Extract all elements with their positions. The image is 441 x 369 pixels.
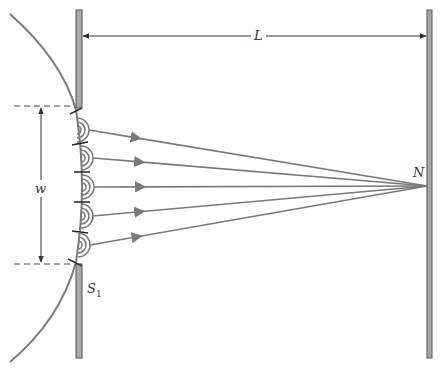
width-label: w xyxy=(35,180,46,197)
ray-segment xyxy=(93,158,140,162)
screen xyxy=(427,10,432,358)
ray-segment xyxy=(140,162,427,186)
ray-segment xyxy=(137,186,427,237)
rays-to-focus xyxy=(89,130,427,245)
focus-point-label: N xyxy=(413,166,424,179)
source-label-main: S xyxy=(87,281,96,296)
ray-segment xyxy=(140,186,427,212)
slit-wall-top xyxy=(76,10,82,108)
ray-segment xyxy=(89,130,136,138)
ray-segment xyxy=(136,138,427,186)
ray-segment xyxy=(141,186,427,187)
ray-segment xyxy=(90,237,137,245)
slit-wall-bottom xyxy=(76,264,82,358)
ray-segment xyxy=(93,212,140,216)
source-label-subscript: 1 xyxy=(96,289,102,299)
distance-label: L xyxy=(251,29,266,42)
single-slit-diffraction-diagram xyxy=(0,0,441,369)
source-label: S1 xyxy=(87,282,102,299)
